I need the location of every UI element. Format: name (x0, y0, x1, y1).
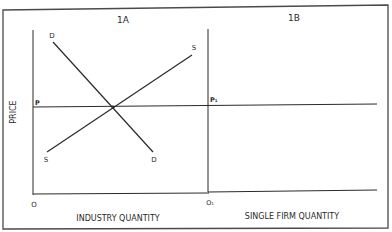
supply-label-bottom: S (44, 156, 49, 164)
right-x-axis (208, 190, 377, 192)
price-label-p1: P₁ (210, 96, 218, 104)
supply-curve (47, 55, 192, 152)
supply-label-top: S (192, 44, 197, 52)
industry-quantity-label: INDUSTRY QUANTITY (76, 214, 160, 223)
price-line (33, 104, 377, 107)
panel-1a-title: 1A (117, 15, 130, 25)
panel-1b-title: 1B (288, 13, 300, 23)
price-axis-label: PRICE (9, 100, 18, 123)
demand-label-top: D (49, 32, 54, 40)
demand-label-bottom: D (151, 156, 156, 164)
right-origin-label: O₁ (206, 199, 214, 207)
left-origin-label: O (31, 201, 37, 209)
supply-demand-diagram: 1A PRICE P S S D D O INDUSTRY QUANTITY 1… (0, 0, 392, 232)
left-x-axis (33, 193, 207, 194)
outer-frame (3, 5, 388, 229)
demand-curve (53, 42, 153, 152)
price-label-p: P (35, 99, 40, 107)
single-firm-quantity-label: SINGLE FIRM QUANTITY (245, 212, 339, 221)
equilibrium-point (111, 105, 114, 108)
